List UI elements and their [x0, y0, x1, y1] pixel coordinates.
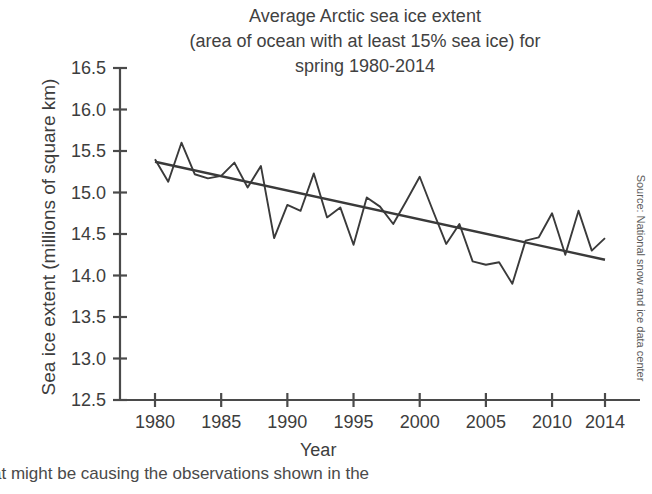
- x-tick-label: 2005: [466, 412, 506, 432]
- y-tick-label: 15.0: [71, 183, 106, 203]
- x-tick-group: 19801985199019952000200520102014: [135, 393, 625, 432]
- x-tick-label: 2014: [585, 412, 625, 432]
- data-line: [155, 143, 605, 284]
- chart-page: Average Arctic sea ice extent (area of o…: [0, 0, 652, 494]
- x-tick-label: 1985: [201, 412, 241, 432]
- y-tick-label: 16.5: [71, 58, 106, 78]
- y-tick-label: 14.0: [71, 266, 106, 286]
- y-tick-label: 13.5: [71, 307, 106, 327]
- y-tick-label: 16.0: [71, 100, 106, 120]
- x-tick-label: 1980: [135, 412, 175, 432]
- y-tick-group: 16.516.015.515.014.514.013.513.012.5: [71, 58, 127, 410]
- chart-plot-area: 16.516.015.515.014.514.013.513.012.5 198…: [0, 0, 652, 494]
- y-tick-label: 14.5: [71, 224, 106, 244]
- x-tick-label: 2010: [532, 412, 572, 432]
- y-tick-label: 13.0: [71, 349, 106, 369]
- axes-group: [120, 68, 640, 400]
- x-tick-label: 1990: [267, 412, 307, 432]
- y-tick-label: 15.5: [71, 141, 106, 161]
- trend-line: [155, 162, 605, 260]
- page-caption: at might be causing the observations sho…: [0, 464, 369, 484]
- data-series-group: [155, 143, 605, 284]
- x-tick-label: 1995: [334, 412, 374, 432]
- y-tick-label: 12.5: [71, 390, 106, 410]
- x-tick-label: 2000: [400, 412, 440, 432]
